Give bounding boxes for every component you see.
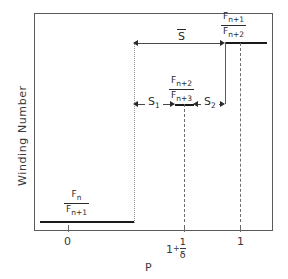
s1-arrowhead-left	[133, 101, 138, 107]
x-tick-label-golden: 1+ 1 δ	[166, 237, 186, 259]
x-tick-label-golden-plus: +	[173, 244, 180, 253]
s1-arrowhead-right	[170, 101, 175, 107]
dashed-line-one	[240, 43, 241, 222]
s2-arrowhead-right	[220, 101, 225, 107]
s-bar-arrowhead-left	[133, 40, 138, 46]
upper-connector	[225, 42, 226, 104]
golden-frac-denominator: δ	[180, 250, 186, 260]
x-tick-1	[240, 225, 241, 232]
s2-arrowhead-left	[193, 101, 198, 107]
golden-frac-numerator: 1	[180, 237, 186, 247]
upper-plateau-line	[225, 42, 267, 44]
upper-plateau-label: Fn+1 Fn+2	[221, 12, 246, 38]
lower-plateau-label: Fn Fn+1	[64, 190, 89, 216]
x-tick-label-golden-one: 1	[166, 243, 173, 256]
x-tick-golden	[184, 225, 185, 232]
x-tick-0	[68, 225, 69, 232]
x-axis-label: P	[145, 261, 152, 274]
middle-plateau-numerator: Fn+2	[169, 76, 194, 87]
s-bar-arrowhead-right	[220, 40, 225, 46]
dashed-line-golden	[184, 104, 185, 222]
middle-plateau-label: Fn+2 Fn+3	[169, 76, 194, 102]
x-tick-label-0: 0	[64, 236, 71, 247]
lower-plateau-line	[40, 221, 134, 223]
y-axis-label: Winding Number	[16, 85, 29, 186]
dotted-riser	[134, 42, 135, 223]
s1-label: S1	[145, 96, 163, 110]
upper-plateau-numerator: Fn+1	[221, 12, 246, 23]
x-tick-label-1: 1	[237, 236, 244, 247]
figure-canvas: Winding Number P 0 1+ 1 δ 1 Fn Fn+1 Fn+2…	[0, 0, 288, 279]
upper-plateau-denominator: Fn+2	[221, 27, 246, 38]
x-tick-label-golden-fraction: 1 δ	[180, 237, 186, 259]
lower-plateau-numerator: Fn	[64, 190, 89, 201]
s2-label: S2	[201, 96, 219, 110]
s-bar-label: S	[174, 31, 189, 42]
lower-plateau-denominator: Fn+1	[64, 205, 89, 216]
